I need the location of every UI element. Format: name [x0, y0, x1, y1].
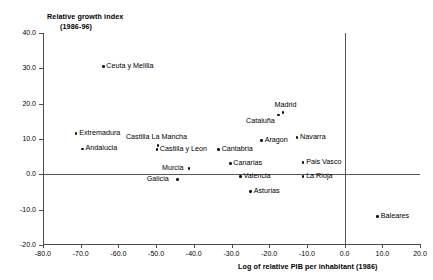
- zero-horizontal-reference-line: [43, 174, 420, 175]
- y-axis-line: [43, 33, 44, 245]
- data-point: [282, 111, 285, 114]
- x-tick-label: 20.0: [402, 250, 433, 257]
- data-point: [249, 190, 252, 193]
- y-tick-label: 30.0: [2, 64, 36, 71]
- x-tick-label: -50.0: [138, 250, 174, 257]
- x-tick-label: 0.0: [327, 250, 363, 257]
- y-axis-title-line2: (1986-96): [60, 22, 92, 31]
- data-point-label: Ceuta y Melilla: [106, 62, 153, 70]
- plot-area: 40.030.020.010.00.0-10.0-20.0 -80.0-70.0…: [43, 33, 420, 245]
- y-tick-label: 0.0: [2, 170, 36, 177]
- data-point: [188, 167, 191, 170]
- data-point: [296, 136, 299, 139]
- data-point-label: Aragon: [265, 136, 288, 144]
- y-tick-label: 40.0: [2, 29, 36, 36]
- data-point: [102, 65, 105, 68]
- x-tick-mark: [81, 244, 82, 248]
- data-point: [81, 148, 84, 151]
- y-tick-mark: [39, 68, 43, 69]
- y-tick-label: -20.0: [2, 241, 36, 248]
- y-tick-mark: [39, 139, 43, 140]
- data-point: [302, 161, 305, 164]
- data-point: [75, 132, 78, 135]
- x-tick-label: -80.0: [25, 250, 61, 257]
- data-point-label: Galicia: [147, 175, 169, 183]
- x-tick-mark: [420, 244, 421, 248]
- x-tick-mark: [232, 244, 233, 248]
- data-point-label: Extremadura: [79, 129, 120, 137]
- x-tick-label: -10.0: [289, 250, 325, 257]
- data-point: [217, 148, 220, 151]
- y-tick-mark: [39, 174, 43, 175]
- x-tick-mark: [382, 244, 383, 248]
- data-point: [229, 162, 232, 165]
- data-point-label: Canarias: [233, 159, 262, 167]
- data-point-label: Castilla y Leon: [160, 145, 207, 153]
- data-point-label: Pais Vasco: [306, 158, 341, 166]
- x-tick-label: 10.0: [364, 250, 400, 257]
- data-point: [260, 139, 263, 142]
- x-tick-label: -60.0: [100, 250, 136, 257]
- y-tick-label: -10.0: [2, 206, 36, 213]
- x-tick-mark: [43, 244, 44, 248]
- data-point: [176, 178, 179, 181]
- data-point-label: Navarra: [300, 133, 326, 141]
- x-axis-title: Log of relative PIB per inhabitant (1986…: [238, 262, 378, 271]
- x-tick-label: -30.0: [214, 250, 250, 257]
- y-axis-title-line1: Relative growth index: [47, 12, 123, 21]
- x-tick-mark: [118, 244, 119, 248]
- data-point: [277, 114, 280, 117]
- x-tick-mark: [156, 244, 157, 248]
- data-point-label: Andalucia: [86, 144, 118, 152]
- x-tick-mark: [345, 244, 346, 248]
- y-tick-mark: [39, 210, 43, 211]
- data-point-label: Castilla La Mancha: [126, 133, 187, 141]
- y-tick-mark: [39, 104, 43, 105]
- x-tick-label: -20.0: [251, 250, 287, 257]
- y-tick-label: 20.0: [2, 100, 36, 107]
- data-point-label: La Rioja: [306, 172, 332, 180]
- zero-vertical-reference-line: [345, 33, 346, 245]
- x-tick-label: -40.0: [176, 250, 212, 257]
- data-point-label: Valencia: [244, 172, 271, 180]
- data-point-label: Cantabria: [222, 145, 253, 153]
- data-point: [376, 215, 379, 218]
- data-point-label: Madrid: [274, 101, 296, 109]
- scatter-chart: Relative growth index (1986-96) Log of r…: [0, 0, 433, 280]
- data-point: [302, 175, 305, 178]
- data-point: [239, 175, 242, 178]
- data-point-label: Murcia: [162, 164, 184, 172]
- data-point-label: Baleares: [381, 212, 409, 220]
- data-point-label: Asturias: [254, 187, 280, 195]
- data-point-label: Cataluña: [246, 117, 275, 125]
- y-tick-label: 10.0: [2, 135, 36, 142]
- data-point: [156, 148, 159, 151]
- x-tick-mark: [194, 244, 195, 248]
- y-tick-mark: [39, 33, 43, 34]
- x-tick-label: -70.0: [63, 250, 99, 257]
- x-tick-mark: [307, 244, 308, 248]
- x-tick-mark: [269, 244, 270, 248]
